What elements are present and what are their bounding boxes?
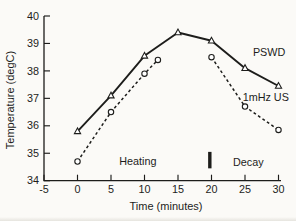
marker-triangle-pswd (175, 29, 181, 35)
marker-circle-us (276, 127, 281, 132)
marker-circle-us (209, 54, 214, 59)
chart-figure: 34353637383940-5051015202530PSWD1mHz USH… (0, 0, 296, 221)
marker-circle-us (142, 71, 147, 76)
y-tick-label: 35 (27, 147, 39, 159)
x-tick-label: 20 (205, 183, 217, 195)
y-tick-label: 38 (27, 65, 39, 77)
series-label-us: 1mHz US (243, 91, 289, 103)
annotation-decay: Decay (233, 156, 264, 168)
y-tick-label: 36 (27, 119, 39, 131)
x-tick-label: 5 (108, 183, 114, 195)
marker-triangle-pswd (275, 83, 281, 89)
phase-divider-bar (208, 152, 211, 168)
y-tick-label: 39 (27, 37, 39, 49)
y-tick-label: 37 (27, 92, 39, 104)
marker-triangle-pswd (208, 37, 214, 43)
x-tick-label: -5 (39, 183, 49, 195)
y-axis-label: Temperature (degC) (4, 51, 16, 149)
x-tick-label: 0 (74, 183, 80, 195)
x-tick-label: 10 (138, 183, 150, 195)
chart-svg: 34353637383940-5051015202530PSWD1mHz USH… (0, 0, 296, 221)
x-tick-label: 25 (239, 183, 251, 195)
scan-edge-shadow (0, 217, 296, 221)
marker-circle-us (242, 104, 247, 109)
marker-circle-us (108, 109, 113, 114)
x-tick-label: 15 (172, 183, 184, 195)
marker-circle-us (75, 159, 80, 164)
y-tick-label: 34 (27, 174, 39, 186)
series-label-pswd: PSWD (253, 46, 286, 58)
y-tick-label: 40 (27, 10, 39, 22)
x-axis-label: Time (minutes) (130, 200, 203, 212)
x-tick-label: 30 (272, 183, 284, 195)
annotation-heating: Heating (119, 155, 156, 167)
marker-circle-us (155, 57, 160, 62)
